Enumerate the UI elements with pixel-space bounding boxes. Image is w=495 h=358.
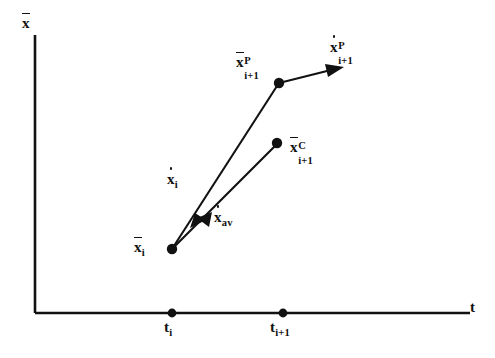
label-x-dot-i-sub: i (175, 179, 178, 190)
label-x-p-i-plus-1-sub: i+1 (244, 71, 259, 82)
tick-dot-t-i (168, 309, 177, 318)
tick-label-t-i-plus-1-base: t (270, 320, 275, 335)
label-x-c-i-plus-1-base: x (290, 140, 298, 155)
label-x-dot-i-base: x (167, 172, 175, 187)
label-x-p-i-plus-1-base: x (236, 55, 244, 70)
label-x-i-sub: i (142, 247, 145, 258)
point-x-p-i-plus-1 (274, 78, 284, 88)
label-x-c-i-plus-1-sup: C (298, 141, 306, 152)
y-axis-label-text: x (22, 15, 30, 31)
label-x-dot-av-base: x (214, 210, 222, 225)
point-x-i (167, 244, 177, 254)
label-x-c-i-plus-1: xCi+1 (290, 140, 313, 155)
label-x-dot-p-i-plus-1: xPi+1 (330, 40, 353, 55)
label-x-p-i-plus-1: xPi+1 (236, 55, 259, 70)
label-x-dot-av-sub: av (222, 217, 233, 228)
tick-label-t-i-plus-1-sub: i+1 (275, 327, 290, 338)
label-x-c-i-plus-1-sub: i+1 (298, 156, 313, 167)
label-x-dot-p-i-plus-1-sup: P (338, 41, 345, 52)
label-x-dot-p-i-plus-1-sub: i+1 (338, 56, 353, 67)
diagram-canvas (0, 0, 495, 358)
vector-x-dot-av-arrowhead (197, 212, 212, 227)
vector-x-dot-av-line (172, 146, 275, 249)
tick-label-t-i: ti (164, 320, 172, 338)
tick-dot-t-i-plus-1 (279, 309, 288, 318)
tick-label-t-i-sub: i (169, 327, 172, 338)
tick-label-t-i-plus-1: ti+1 (270, 320, 290, 338)
x-axis-label: t (470, 300, 475, 315)
label-x-p-i-plus-1-sup: P (244, 56, 251, 67)
y-axis-label: x (22, 16, 30, 31)
predictor-corrector-diagram: x t ti ti+1 xi xPi+1 xCi+1 xi xav xPi+1 (0, 0, 495, 358)
x-axis-label-text: t (470, 299, 475, 315)
tick-label-t-i-base: t (164, 320, 169, 335)
label-x-i: xi (134, 240, 145, 258)
vector-x-dot-p-line (279, 70, 331, 83)
label-x-dot-i: xi (167, 172, 178, 190)
point-x-c-i-plus-1 (272, 138, 282, 148)
label-x-dot-p-i-plus-1-base: x (330, 40, 338, 55)
label-x-i-base: x (134, 240, 142, 255)
label-x-dot-av: xav (214, 210, 233, 228)
